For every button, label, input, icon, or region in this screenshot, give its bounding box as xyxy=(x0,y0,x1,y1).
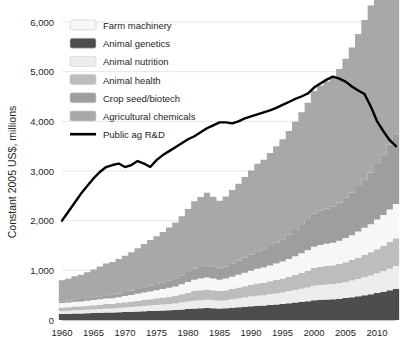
legend-swatch xyxy=(70,56,96,66)
x-tick-label: 1975 xyxy=(146,327,167,338)
legend-swatch xyxy=(70,20,96,30)
y-tick-label: 1,000 xyxy=(30,265,54,276)
chart-svg: 01,0002,0003,0004,0005,0006,000 19601965… xyxy=(0,0,403,352)
legend-label: Crop seed/biotech xyxy=(103,93,180,104)
y-tick-label: 3,000 xyxy=(30,166,54,177)
legend-swatch xyxy=(70,38,96,48)
legend-label: Animal nutrition xyxy=(103,56,168,67)
legend-swatch xyxy=(70,75,96,85)
y-axis-title: Constant 2005 US$, millions xyxy=(6,106,18,239)
x-axis-ticks: 1960196519701975198019851990199520002005… xyxy=(51,327,387,338)
legend-label: Animal health xyxy=(103,75,161,86)
legend-swatch xyxy=(70,111,96,121)
x-tick-label: 1995 xyxy=(272,327,293,338)
x-tick-label: 1970 xyxy=(114,327,135,338)
y-tick-label: 0 xyxy=(49,315,54,326)
x-tick-label: 1965 xyxy=(83,327,104,338)
legend-label: Public ag R&D xyxy=(103,129,165,140)
legend-label: Agricultural chemicals xyxy=(103,111,196,122)
legend-label: Farm machinery xyxy=(103,20,172,31)
y-tick-label: 2,000 xyxy=(30,215,54,226)
x-tick-label: 1985 xyxy=(209,327,230,338)
x-tick-label: 2005 xyxy=(335,327,356,338)
chart-figure: 01,0002,0003,0004,0005,0006,000 19601965… xyxy=(0,0,403,352)
y-tick-label: 5,000 xyxy=(30,66,54,77)
x-tick-label: 2000 xyxy=(304,327,325,338)
y-tick-label: 4,000 xyxy=(30,116,54,127)
y-tick-label: 6,000 xyxy=(30,17,54,28)
legend-swatch xyxy=(70,93,96,103)
x-tick-label: 1980 xyxy=(177,327,198,338)
x-tick-label: 1960 xyxy=(51,327,72,338)
x-tick-label: 2010 xyxy=(367,327,388,338)
legend-label: Animal genetics xyxy=(103,38,170,49)
x-tick-label: 1990 xyxy=(240,327,261,338)
